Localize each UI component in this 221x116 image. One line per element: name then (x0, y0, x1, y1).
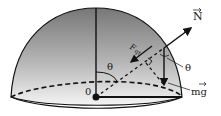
hemisphere-force-diagram: θ 0 θ N mg F qt (0, 0, 221, 116)
label-origin: 0 (85, 86, 91, 97)
label-theta-top: θ (107, 61, 113, 72)
origin-point (93, 94, 100, 101)
label-theta-side: θ (185, 62, 191, 73)
label-normal-force: N (193, 10, 203, 23)
diagram-canvas: θ 0 θ N mg F qt (0, 0, 221, 116)
label-weight: mg (191, 86, 207, 97)
normal-force-arrow (164, 28, 191, 48)
